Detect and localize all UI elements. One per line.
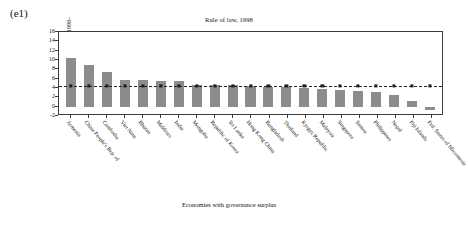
x-label-slot: Bhutan xyxy=(133,118,151,204)
bar-slot xyxy=(313,32,331,114)
x-label-slot: Hong Kong China xyxy=(241,118,259,204)
bar-slot xyxy=(80,32,98,114)
bar xyxy=(245,86,255,107)
x-label-slot: Armenia xyxy=(61,118,79,204)
x-label-slot: Thailand xyxy=(278,118,296,204)
bar xyxy=(299,88,309,107)
bar xyxy=(102,72,112,107)
bar-slot xyxy=(295,32,313,114)
bar-slot xyxy=(206,32,224,114)
bar-slot xyxy=(134,32,152,114)
x-label-slot: Mongolia xyxy=(187,118,205,204)
bar xyxy=(66,58,76,107)
x-label-slot: Fed. States of Micronesia xyxy=(422,118,440,204)
x-label-slot: Nepal xyxy=(386,118,404,204)
bar-slot xyxy=(367,32,385,114)
bar xyxy=(192,85,202,107)
x-label-slot: Samoa xyxy=(350,118,368,204)
x-axis-tick-label: Nepal xyxy=(390,119,403,133)
x-label-slot: Philippines xyxy=(368,118,386,204)
x-axis-title: Economies with governance surplus xyxy=(0,201,458,208)
x-label-slot: China People's Rep. of xyxy=(79,118,97,204)
reference-line xyxy=(59,86,442,87)
bar-slot xyxy=(224,32,242,114)
x-label-slot: Malaysia xyxy=(314,118,332,204)
bar-slot xyxy=(98,32,116,114)
x-axis-tick-label: Samoa xyxy=(354,119,368,135)
x-label-slot: Singapore xyxy=(332,118,350,204)
bar xyxy=(281,87,291,107)
bar xyxy=(371,92,381,107)
x-label-slot: India xyxy=(169,118,187,204)
bar xyxy=(317,89,327,107)
x-axis-tick-label: India xyxy=(174,119,186,132)
bar-slot xyxy=(403,32,421,114)
x-label-slot: Fiji Islands xyxy=(404,118,422,204)
bar-slot xyxy=(62,32,80,114)
bar xyxy=(210,85,220,106)
x-label-slot: Sri Lanka xyxy=(223,118,241,204)
bars-layer xyxy=(59,32,442,114)
bar xyxy=(425,107,435,110)
x-label-slot: Kyrgyz Republic xyxy=(296,118,314,204)
bar xyxy=(389,95,399,106)
plot-area xyxy=(58,31,443,115)
x-label-slot: Cambodia xyxy=(97,118,115,204)
x-axis-labels: ArmeniaChina People's Rep. ofCambodiaVie… xyxy=(58,118,443,204)
bar xyxy=(335,90,345,107)
bar-slot xyxy=(349,32,367,114)
bar-slot xyxy=(331,32,349,114)
x-axis-tick-label: Fed. States of Micronesia xyxy=(426,119,467,167)
bar-slot xyxy=(259,32,277,114)
x-label-slot: Viet Nam xyxy=(115,118,133,204)
bar xyxy=(263,87,273,107)
bar-slot xyxy=(385,32,403,114)
x-label-slot: Maldives xyxy=(151,118,169,204)
bar-slot xyxy=(116,32,134,114)
bar xyxy=(228,85,238,106)
bar-slot xyxy=(152,32,170,114)
y-axis: GDP per capita growth rate (%), 1998–200… xyxy=(42,31,58,115)
x-label-slot: Republic of Korea xyxy=(205,118,223,204)
x-label-slot: Bangladesh xyxy=(260,118,278,204)
bar-slot xyxy=(170,32,188,114)
bar-slot xyxy=(421,32,439,114)
bar xyxy=(353,91,363,107)
bar-slot xyxy=(277,32,295,114)
bar-slot xyxy=(188,32,206,114)
bar xyxy=(120,80,130,107)
bar-slot xyxy=(242,32,260,114)
bar xyxy=(138,80,148,107)
bar xyxy=(407,101,417,107)
